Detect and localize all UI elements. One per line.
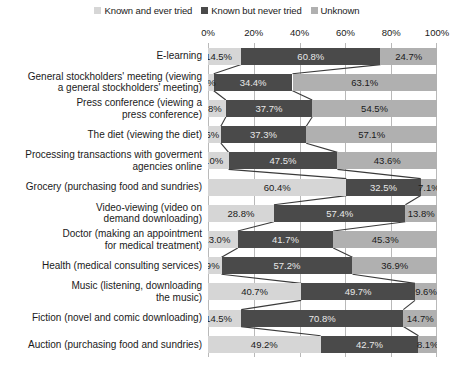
table-row: 5.6%37.3%57.1% — [208, 126, 437, 143]
bar-segment-value: 37.3% — [250, 129, 277, 140]
category-label: Music (listening, downloadingthe music) — [2, 279, 202, 304]
legend-swatch-known-and-ever-tried — [94, 7, 101, 14]
category-label-line: Health (medical consulting services) — [42, 260, 202, 272]
category-label-line: the music) — [71, 292, 202, 304]
bar-segment: 14.5% — [208, 310, 241, 327]
bar-segment: 45.3% — [333, 231, 437, 248]
bar-segment: 57.1% — [306, 126, 437, 143]
bar-segment: 7.8% — [208, 100, 226, 117]
bar-segment: 37.7% — [226, 100, 312, 117]
table-row: 49.2%42.7%8.1% — [208, 336, 437, 353]
bar-segment-value: 41.7% — [272, 234, 299, 245]
bar-segment-value: 13.0% — [208, 234, 230, 245]
table-row: 60.4%32.5%7.1% — [208, 179, 437, 196]
bar-segment: 60.8% — [241, 48, 380, 65]
bar-segment-value: 54.5% — [361, 103, 388, 114]
category-label-line: agencies online — [25, 161, 202, 173]
bar-segment: 57.4% — [274, 205, 405, 222]
category-label-line: Grocery (purchasing food and sundries) — [26, 181, 202, 193]
table-row: 14.5%70.8%14.7% — [208, 310, 437, 327]
bar-segment-value: 45.3% — [372, 234, 399, 245]
bar-segment-value: 49.2% — [251, 339, 278, 350]
bar-segment-value: 2.5% — [208, 77, 216, 88]
category-label-line: Doctor (making an appointment — [62, 228, 202, 240]
category-label: Fiction (novel and comic downloading) — [2, 306, 202, 331]
category-label-line: a general stockholders' meeting) — [28, 82, 202, 94]
bar-segment-value: 14.5% — [208, 51, 232, 62]
bar-segment: 43.6% — [337, 152, 437, 169]
bar-segment-value: 70.8% — [309, 313, 336, 324]
table-row: 9.0%47.5%43.6% — [208, 152, 437, 169]
category-label: Processing transactions with govermentag… — [2, 148, 202, 173]
bar-rows: 14.5%60.8%24.7%2.5%34.4%63.1%7.8%37.7%54… — [208, 43, 437, 357]
bar-segment-value: 5.9% — [208, 260, 220, 271]
bar-segment: 63.1% — [293, 74, 437, 91]
category-label-line: Fiction (novel and comic downloading) — [32, 312, 202, 324]
category-label-line: demand downloading) — [96, 213, 202, 225]
bar-segment: 24.7% — [380, 48, 437, 65]
category-label-line: E-learning — [156, 50, 202, 62]
bar-segment-value: 47.5% — [270, 155, 297, 166]
bar-segment-value: 32.5% — [370, 182, 397, 193]
bar-segment-value: 7.1% — [418, 182, 437, 193]
category-label-line: Music (listening, downloading — [71, 280, 202, 292]
table-row: 5.9%57.2%36.9% — [208, 257, 437, 274]
bar-segment-value: 49.7% — [345, 286, 372, 297]
category-label-line: Auction (purchasing food and sundries) — [28, 339, 202, 351]
category-label-line: Press conference (viewing a — [76, 97, 202, 109]
bar-segment: 36.9% — [352, 257, 437, 274]
bar-segment-value: 57.1% — [358, 129, 385, 140]
x-tick-20: 20% — [244, 27, 263, 38]
x-tick-80: 80% — [382, 27, 401, 38]
bar-segment: 54.5% — [312, 100, 437, 117]
legend-label-unknown: Unknown — [321, 5, 360, 16]
category-label-line: Video-viewing (video on — [96, 202, 202, 214]
bar-segment-value: 63.1% — [351, 77, 378, 88]
category-label: The diet (viewing the diet) — [2, 122, 202, 147]
x-tick-0: 0% — [201, 27, 215, 38]
bar-segment-value: 57.4% — [326, 208, 353, 219]
category-label: General stockholders' meeting (viewinga … — [2, 70, 202, 95]
bar-segment-value: 8.1% — [417, 339, 437, 350]
bar-segment: 9.6% — [415, 283, 437, 300]
category-label: Auction (purchasing food and sundries) — [2, 332, 202, 357]
bar-segment-value: 14.5% — [208, 313, 232, 324]
bar-segment: 40.7% — [208, 283, 301, 300]
bar-segment: 37.3% — [221, 126, 306, 143]
category-label-line: for medical treatment) — [62, 240, 202, 252]
legend-item-unknown: Unknown — [311, 5, 360, 16]
bar-segment: 9.0% — [208, 152, 229, 169]
stacked-bar-chart: Known and ever tried Known but never tri… — [0, 0, 454, 386]
category-label: Doctor (making an appointmentfor medical… — [2, 227, 202, 252]
table-row: 40.7%49.7%9.6% — [208, 283, 437, 300]
bar-segment: 41.7% — [238, 231, 333, 248]
bar-segment-value: 43.6% — [374, 155, 401, 166]
bar-segment-value: 13.8% — [408, 208, 435, 219]
bar-segment: 32.5% — [346, 179, 420, 196]
bar-segment: 49.2% — [208, 336, 321, 353]
bar-segment: 14.7% — [403, 310, 437, 327]
bar-segment-value: 57.2% — [274, 260, 301, 271]
bar-segment: 13.8% — [405, 205, 437, 222]
bar-segment: 34.4% — [214, 74, 293, 91]
bar-segment: 5.6% — [208, 126, 221, 143]
bar-segment-value: 14.7% — [407, 313, 434, 324]
bar-segment: 47.5% — [229, 152, 338, 169]
legend-item-known-but-never-tried: Known but never tried — [201, 5, 301, 16]
bar-segment-value: 5.6% — [208, 129, 219, 140]
x-axis-ticks: 0%20%40%60%80%100% — [168, 27, 454, 39]
bar-segment-value: 9.6% — [415, 286, 437, 297]
x-tick-60: 60% — [336, 27, 355, 38]
legend-label-known-but-never-tried: Known but never tried — [211, 5, 301, 16]
category-label: Video-viewing (video ondemand downloadin… — [2, 201, 202, 226]
bar-segment: 8.1% — [418, 336, 437, 353]
bar-segment-value: 60.4% — [264, 182, 291, 193]
bar-segment: 49.7% — [301, 283, 415, 300]
x-tick-100: 100% — [425, 27, 449, 38]
legend-label-known-and-ever-tried: Known and ever tried — [104, 5, 192, 16]
legend-item-known-and-ever-tried: Known and ever tried — [94, 5, 192, 16]
table-row: 14.5%60.8%24.7% — [208, 48, 437, 65]
table-row: 7.8%37.7%54.5% — [208, 100, 437, 117]
category-label-line: press conference) — [76, 109, 202, 121]
bar-segment: 57.2% — [222, 257, 353, 274]
